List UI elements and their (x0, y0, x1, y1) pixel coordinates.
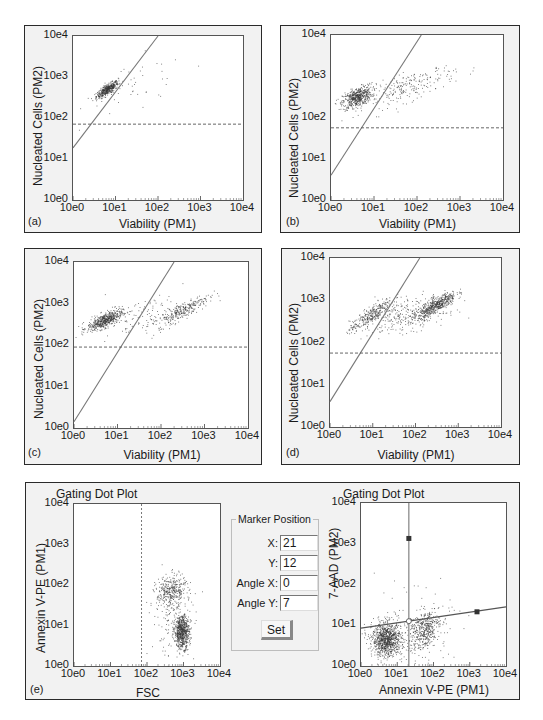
scatter-plot-c (73, 261, 249, 429)
x-tick-label: 10e1 (352, 429, 392, 440)
marker-x-label: X: (234, 537, 278, 549)
y-tick-label: 10e3 (316, 537, 356, 548)
panel-letter: (c) (28, 446, 41, 458)
x-tick-label: 10e3 (184, 430, 224, 441)
y-tick-label: 10e2 (29, 338, 69, 349)
y-tick-label: 10e1 (29, 380, 69, 391)
marker-handle-square[interactable] (475, 609, 480, 614)
y-tick-label: 10e1 (316, 618, 356, 629)
y-tick-label: 10e3 (29, 297, 69, 308)
x-tick-label: 10e3 (180, 202, 220, 213)
y-tick-label: 10e3 (28, 70, 68, 81)
y-tick-label: 10e1 (28, 152, 68, 163)
x-tick-label: 10e4 (485, 668, 525, 679)
x-tick-label: 10e0 (53, 668, 93, 679)
x-tick-label: 10e2 (140, 430, 180, 441)
marker-position-title: Marker Position (236, 513, 313, 525)
gating-dot-plot-right[interactable] (360, 502, 507, 667)
x-tick-label: 10e2 (395, 429, 435, 440)
marker-y-label: Y: (234, 557, 278, 569)
y-tick-label: 10e4 (285, 251, 325, 262)
plot-canvas (330, 258, 501, 427)
x-axis-label: Viability (PM1) (330, 448, 502, 462)
x-tick-label: 10e4 (227, 430, 267, 441)
y-tick-label: 10e4 (29, 497, 69, 508)
y-tick-label: 10e4 (316, 496, 356, 507)
y-tick-label: 10e2 (286, 111, 326, 122)
panel-letter: (d) (286, 446, 299, 458)
y-tick-label: 10e2 (28, 111, 68, 122)
x-tick-label: 10e0 (309, 429, 349, 440)
marker-x-input[interactable]: 21 (280, 535, 318, 551)
x-tick-label: 10e3 (163, 668, 203, 679)
y-axis-label: Nucleated Cells (PM2) (287, 78, 301, 198)
y-tick-label: 10e2 (29, 578, 69, 589)
left-x-axis-label: FSC (74, 686, 222, 700)
x-tick-label: 10e4 (480, 429, 520, 440)
marker-angle-x-row: Angle X: 0 (234, 575, 318, 591)
y-tick-label: 10e3 (29, 538, 69, 549)
x-axis-label: Viability (PM1) (72, 217, 243, 231)
x-tick-label: 10e3 (439, 202, 479, 213)
x-tick-label: 10e3 (437, 429, 477, 440)
plot-canvas (331, 35, 503, 200)
y-tick-label: 10e1 (29, 619, 69, 630)
x-tick-label: 10e4 (482, 202, 522, 213)
x-tick-label: 10e2 (413, 668, 453, 679)
x-tick-label: 10e2 (396, 202, 436, 213)
y-tick-label: 10e2 (316, 578, 356, 589)
scatter-plot-d (329, 257, 502, 428)
x-tick-label: 10e0 (52, 202, 92, 213)
y-axis-label: Nucleated Cells (PM2) (32, 299, 46, 419)
x-tick-label: 10e3 (449, 668, 489, 679)
plot-canvas (74, 262, 248, 428)
x-tick-label: 10e2 (137, 202, 177, 213)
y-axis-label: Nucleated Cells (PM2) (287, 303, 301, 423)
panel-letter: (a) (28, 215, 41, 227)
marker-angle-y-input[interactable]: 7 (280, 595, 318, 611)
set-button[interactable]: Set (261, 620, 293, 640)
x-axis-label: Viability (PM1) (74, 448, 250, 462)
x-tick-label: 10e1 (353, 202, 393, 213)
marker-angle-x-label: Angle X: (234, 577, 278, 589)
plot-canvas (73, 36, 243, 200)
marker-angle-y-row: Angle Y: 7 (234, 595, 318, 611)
y-tick-label: 10e4 (28, 29, 68, 40)
y-tick-label: 10e2 (285, 336, 325, 347)
marker-angle-x-input[interactable]: 0 (280, 575, 318, 591)
x-tick-label: 10e1 (90, 668, 130, 679)
marker-position-group: Marker Position X: 21 Y: 12 Angle X: 0 A… (231, 519, 319, 651)
panel-letter: (e) (30, 683, 43, 695)
panel-letter: (b) (286, 215, 299, 227)
gating-dot-plot-left[interactable] (73, 503, 221, 667)
y-tick-label: 10e3 (285, 293, 325, 304)
marker-y-input[interactable]: 12 (280, 555, 318, 571)
scatter-plot-a (72, 35, 244, 201)
y-axis-label: Nucleated Cells (PM2) (31, 66, 45, 186)
x-tick-label: 10e0 (340, 668, 380, 679)
y-tick-label: 10e1 (285, 378, 325, 389)
y-tick-label: 10e1 (286, 152, 326, 163)
marker-y-row: Y: 12 (234, 555, 318, 571)
left-y-axis-label: Annexin V-PE (PM1) (34, 543, 48, 653)
right-x-axis-label: Annexin V-PE (PM1) (361, 683, 507, 697)
x-tick-label: 10e0 (310, 202, 350, 213)
scatter-plot-b (330, 34, 504, 201)
marker-angle-y-label: Angle Y: (234, 597, 278, 609)
plot-canvas (361, 503, 506, 666)
x-tick-label: 10e4 (222, 202, 262, 213)
marker-handle-circle[interactable] (406, 619, 411, 624)
x-tick-label: 10e1 (95, 202, 135, 213)
x-tick-label: 10e0 (53, 430, 93, 441)
y-tick-label: 10e3 (286, 69, 326, 80)
plot-canvas (74, 504, 220, 666)
x-tick-label: 10e2 (126, 668, 166, 679)
x-tick-label: 10e1 (97, 430, 137, 441)
marker-x-row: X: 21 (234, 535, 318, 551)
y-tick-label: 10e4 (29, 255, 69, 266)
marker-handle-square[interactable] (406, 536, 411, 541)
y-tick-label: 10e4 (286, 28, 326, 39)
x-axis-label: Viability (PM1) (331, 217, 504, 231)
x-tick-label: 10e4 (199, 668, 239, 679)
x-tick-label: 10e1 (376, 668, 416, 679)
